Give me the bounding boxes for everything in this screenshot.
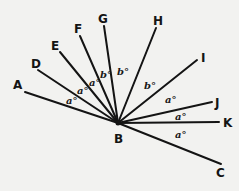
angle-label-e-f: a°	[89, 77, 100, 88]
point-label-f: F	[74, 22, 82, 36]
angle-label-h-i: b°	[144, 80, 156, 91]
angle-label-g-h: b°	[117, 66, 129, 77]
point-label-i: I	[201, 51, 205, 65]
angle-label-f-g: b°	[100, 69, 112, 80]
point-label-a: A	[13, 78, 23, 92]
point-label-g: G	[98, 12, 108, 26]
vertex-label-b: B	[114, 132, 123, 146]
vertex-point	[116, 121, 121, 126]
point-label-d: D	[31, 57, 41, 71]
angle-label-i-j: a°	[165, 94, 176, 105]
point-label-j: J	[214, 96, 219, 110]
ray-bc	[118, 123, 221, 164]
point-label-h: H	[153, 14, 163, 28]
point-label-k: K	[223, 116, 233, 130]
angle-diagram: ADEFGHIJKC a°a°a°b°b°b°a°a°a° B	[0, 0, 239, 191]
ray-bk	[118, 122, 219, 123]
angle-label-d-e: a°	[77, 85, 88, 96]
point-label-c: C	[216, 166, 225, 180]
angle-label-a-d: a°	[66, 95, 77, 106]
angle-label-j-k: a°	[175, 111, 186, 122]
point-label-e: E	[51, 39, 59, 53]
angle-label-k-c: a°	[175, 129, 186, 140]
